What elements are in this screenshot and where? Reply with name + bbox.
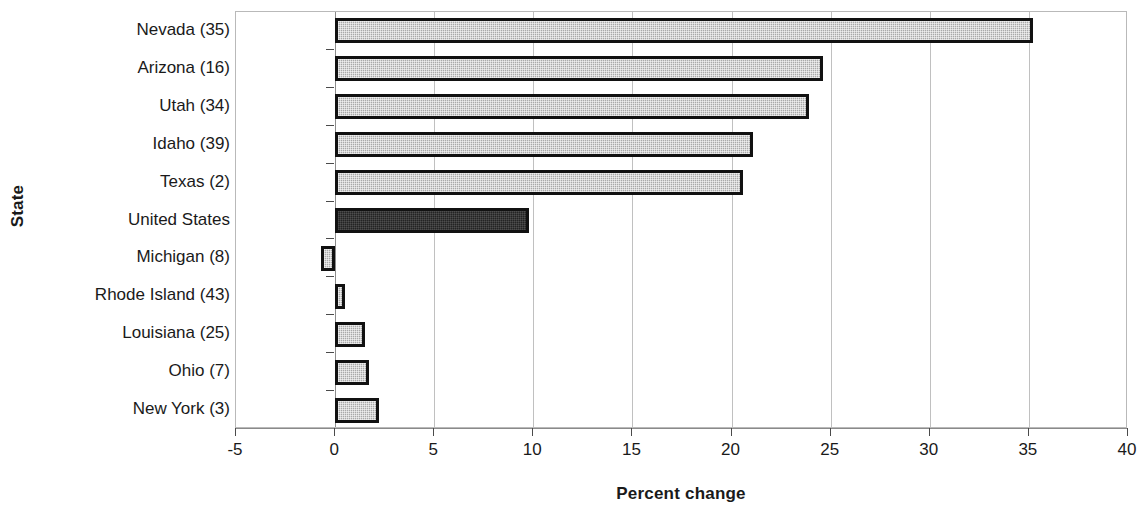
y-axis-tick [326,352,334,353]
bar-highlight [335,208,529,233]
y-axis-tick [326,201,334,202]
x-axis-tick [631,428,632,436]
x-axis-line [235,428,1127,429]
y-axis-category-label: Louisiana (25) [0,323,230,343]
gridline [831,12,832,427]
y-axis-category-label: Texas (2) [0,172,230,192]
x-axis-tick-label: 35 [998,440,1058,460]
y-axis-category-label: Arizona (16) [0,58,230,78]
y-axis-tick [326,87,334,88]
x-axis-tick-label: -5 [205,440,265,460]
y-axis-tick [326,238,334,239]
bar [335,170,743,195]
x-axis-tick-label: 40 [1097,440,1141,460]
x-axis-tick [433,428,434,436]
x-axis-tick-label: 25 [800,440,860,460]
y-axis-category-label: United States [0,210,230,230]
x-axis-tick-label: 10 [502,440,562,460]
bar [335,398,379,423]
bar [335,18,1033,43]
x-axis-tick [830,428,831,436]
y-axis-tick [326,49,334,50]
bar [335,56,823,81]
x-axis-tick-label: 20 [701,440,761,460]
bar [335,360,369,385]
y-axis-tick [326,314,334,315]
y-axis-category-labels: Nevada (35)Arizona (16)Utah (34)Idaho (3… [0,11,230,428]
y-axis-tick [326,125,334,126]
x-axis-title: Percent change [235,484,1127,504]
x-axis-tick [532,428,533,436]
bar [335,322,365,347]
x-axis-tick [1028,428,1029,436]
y-axis-category-label: Rhode Island (43) [0,285,230,305]
x-axis-tick-label: 0 [304,440,364,460]
bar [321,246,335,271]
bar [335,94,809,119]
gridline [1029,12,1030,427]
bar-chart: State Nevada (35)Arizona (16)Utah (34)Id… [0,0,1141,515]
y-axis-category-label: Michigan (8) [0,247,230,267]
x-axis-tick-label: 30 [899,440,959,460]
bar [335,132,753,157]
x-axis-tick [1127,428,1128,436]
x-axis-tick-label: 5 [403,440,463,460]
y-axis-tick [326,276,334,277]
x-axis-tick [235,428,236,436]
y-axis-category-label: Nevada (35) [0,20,230,40]
x-axis-tick [731,428,732,436]
y-axis-category-label: Idaho (39) [0,134,230,154]
x-axis-tick [929,428,930,436]
y-axis-category-label: Utah (34) [0,96,230,116]
y-axis-category-label: Ohio (7) [0,361,230,381]
y-axis-tick [326,163,334,164]
gridline [930,12,931,427]
plot-area [235,11,1127,428]
x-axis-tick [334,428,335,436]
y-axis-tick [326,390,334,391]
y-axis-category-label: New York (3) [0,399,230,419]
x-axis-tick-label: 15 [601,440,661,460]
bar [335,284,345,309]
